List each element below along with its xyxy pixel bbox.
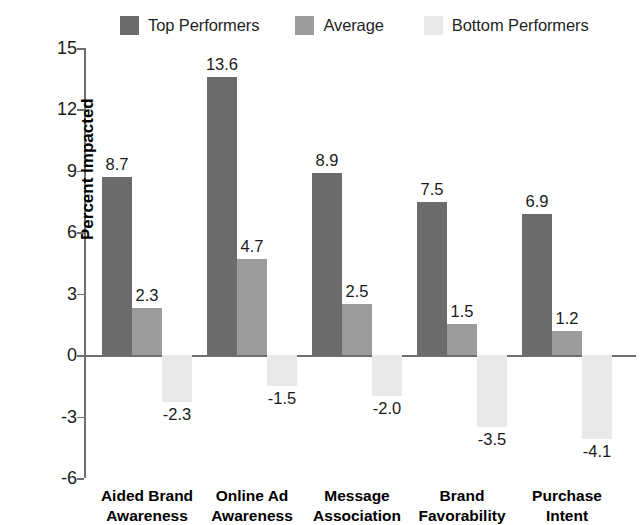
bar-value-label: -1.5 — [252, 389, 312, 408]
bar — [417, 202, 447, 356]
bar — [207, 77, 237, 355]
bar-group: 8.72.3-2.3 — [102, 48, 192, 478]
y-tick-label: -3 — [61, 406, 77, 427]
y-tick-mark — [77, 417, 84, 419]
y-tick-label: 12 — [57, 99, 77, 120]
bar-value-label: 4.7 — [222, 237, 282, 256]
bar — [522, 214, 552, 355]
bar-value-label: -2.0 — [357, 399, 417, 418]
bar — [582, 355, 612, 439]
y-tick-label: 6 — [67, 222, 77, 243]
legend-swatch-bottom-performers — [424, 16, 443, 35]
legend-item-average: Average — [295, 16, 383, 35]
bar — [372, 355, 402, 396]
bar — [267, 355, 297, 386]
chart-legend: Top Performers Average Bottom Performers — [120, 12, 630, 38]
y-tick-mark — [77, 109, 84, 111]
bar-group: 6.91.2-4.1 — [522, 48, 612, 478]
bar-value-label: -4.1 — [567, 442, 627, 461]
legend-label-top-performers: Top Performers — [148, 16, 259, 35]
bar-value-label: 8.9 — [297, 151, 357, 170]
legend-label-bottom-performers: Bottom Performers — [452, 16, 589, 35]
bar-chart: Top Performers Average Bottom Performers… — [0, 0, 642, 525]
bar-value-label: 7.5 — [402, 180, 462, 199]
bar — [477, 355, 507, 427]
y-tick-label: 0 — [67, 345, 77, 366]
y-tick-mark — [77, 355, 84, 357]
legend-swatch-average — [295, 16, 314, 35]
y-tick-mark — [77, 478, 84, 480]
x-category-label-line: Purchase — [497, 486, 637, 506]
y-tick-label: 15 — [57, 38, 77, 59]
y-tick-mark — [77, 294, 84, 296]
bar-value-label: -2.3 — [147, 405, 207, 424]
x-tick-mark — [84, 357, 86, 364]
legend-item-top-performers: Top Performers — [120, 16, 259, 35]
bar-value-label: 8.7 — [87, 155, 147, 174]
y-tick-mark — [77, 232, 84, 234]
bar — [132, 308, 162, 355]
bar-value-label: 1.2 — [537, 309, 597, 328]
y-tick-label: -6 — [61, 468, 77, 489]
bar-group: 13.64.7-1.5 — [207, 48, 297, 478]
y-tick-label: 9 — [67, 160, 77, 181]
x-category-label-line: Intent — [497, 506, 637, 525]
bar — [447, 324, 477, 355]
bar-value-label: 2.3 — [117, 286, 177, 305]
bar-group: 7.51.5-3.5 — [417, 48, 507, 478]
bar — [237, 259, 267, 355]
bar-value-label: 13.6 — [192, 55, 252, 74]
y-tick-mark — [77, 48, 84, 50]
bar — [162, 355, 192, 402]
x-category-label: PurchaseIntent — [497, 486, 637, 525]
bar-value-label: 2.5 — [327, 282, 387, 301]
bar — [342, 304, 372, 355]
bar — [552, 331, 582, 356]
bar-group: 8.92.5-2.0 — [312, 48, 402, 478]
legend-swatch-top-performers — [120, 16, 139, 35]
legend-item-bottom-performers: Bottom Performers — [424, 16, 589, 35]
y-tick-label: 3 — [67, 283, 77, 304]
bar — [312, 173, 342, 355]
y-tick-mark — [77, 171, 84, 173]
bar-value-label: 6.9 — [507, 192, 567, 211]
bar — [102, 177, 132, 355]
bar-value-label: 1.5 — [432, 302, 492, 321]
plot-area: Percent Impacted 15129630-3-6 8.72.3-2.3… — [84, 48, 636, 478]
bar-value-label: -3.5 — [462, 430, 522, 449]
legend-label-average: Average — [323, 16, 383, 35]
